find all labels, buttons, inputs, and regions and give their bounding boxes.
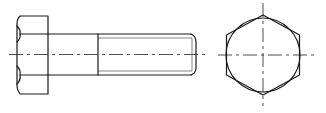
bolt-drawing bbox=[0, 0, 326, 113]
bolt-head bbox=[17, 16, 48, 94]
end-view bbox=[218, 3, 316, 106]
side-view bbox=[9, 16, 205, 94]
